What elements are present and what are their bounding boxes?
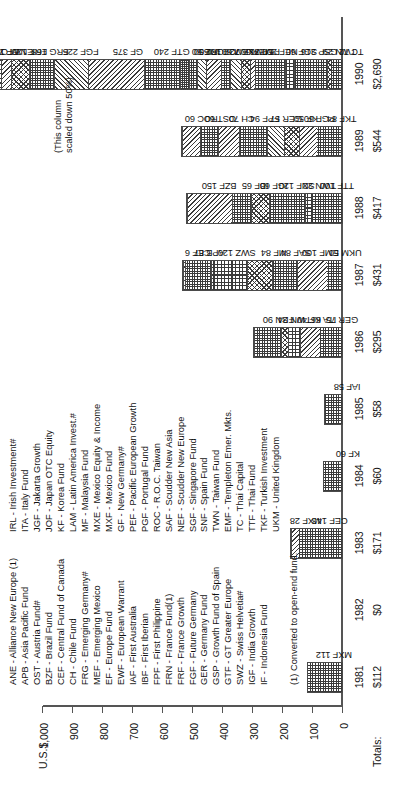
x-tick-label-1990: 1990 bbox=[353, 47, 365, 101]
bar-1984[interactable] bbox=[323, 461, 343, 492]
bar-segment-ttf[interactable] bbox=[312, 194, 342, 223]
y-tick-label: 500 bbox=[188, 723, 200, 769]
segment-label-cef: CEF 6 bbox=[185, 248, 211, 257]
y-tick-label: 200 bbox=[278, 723, 290, 769]
bar-segment-mef[interactable] bbox=[241, 60, 250, 89]
legend-item: IBF - First Iberian bbox=[140, 558, 152, 685]
bar-segment-sgf[interactable] bbox=[285, 60, 294, 89]
bar-segment-twn[interactable] bbox=[327, 60, 331, 89]
bar-segment-gf[interactable] bbox=[88, 60, 144, 89]
bar-segment-mf[interactable] bbox=[247, 261, 272, 290]
bar-segment-ger[interactable] bbox=[320, 328, 343, 357]
bar-segment-roc[interactable] bbox=[182, 127, 200, 156]
bar-segment-bzf[interactable] bbox=[187, 194, 232, 223]
bar-segment-jof[interactable] bbox=[206, 60, 221, 89]
legend-item: MXF - Mexico Fund bbox=[104, 403, 116, 532]
bar-segment-mxf[interactable] bbox=[308, 663, 342, 692]
bar-segment-apb[interactable] bbox=[185, 261, 211, 290]
bar-1981[interactable] bbox=[307, 662, 343, 693]
bar-segment-frn[interactable] bbox=[254, 328, 281, 357]
bar-1988[interactable] bbox=[186, 193, 343, 224]
bar-segment-jgf[interactable] bbox=[197, 60, 206, 89]
y-tick-label: 900 bbox=[68, 723, 80, 769]
legend-item: TC - Thai Capital bbox=[235, 403, 247, 532]
legend-item: JGF - Jakarta Growth bbox=[32, 403, 44, 532]
y-tick-label: 1,000 bbox=[38, 723, 50, 769]
bar-segment-ost[interactable] bbox=[200, 127, 218, 156]
bar-segment-pef[interactable] bbox=[250, 60, 255, 89]
bar-segment-frf[interactable] bbox=[11, 60, 29, 89]
bar-segment-kf[interactable] bbox=[324, 462, 342, 491]
bar-segment-lam[interactable] bbox=[221, 60, 230, 89]
bar-segment-if[interactable] bbox=[180, 60, 189, 89]
bar-segment-kf[interactable] bbox=[288, 328, 300, 357]
segment-label-mf: MF 84 bbox=[261, 248, 287, 257]
y-tick-mark bbox=[342, 706, 343, 713]
bar-segment-gtf[interactable] bbox=[144, 60, 180, 89]
bar-segment-cef[interactable] bbox=[183, 261, 185, 290]
legend-item: IGF - India Growth bbox=[247, 558, 259, 685]
bar-1986[interactable] bbox=[253, 327, 343, 358]
bar-segment-enwf[interactable] bbox=[1, 60, 12, 89]
legend-item: NEF - Scudder New Europe bbox=[176, 403, 188, 532]
bar-segment-ger[interactable] bbox=[267, 127, 284, 156]
bar-segment-pgf[interactable] bbox=[299, 127, 317, 156]
legend-item: ANE - Alliance New Europe (1) bbox=[8, 558, 20, 685]
legend-item: EMF - Templeton Emer. Mkts. bbox=[223, 403, 235, 532]
chart-footnote: (1) Converted to open-end fund. bbox=[289, 553, 299, 685]
y-tick-mark bbox=[162, 706, 163, 713]
bar-segment-twn[interactable] bbox=[305, 194, 312, 223]
x-tick-label-1987: 1987 bbox=[353, 248, 365, 302]
segment-label-if: IF 60 bbox=[192, 47, 212, 56]
bar-segment-emf[interactable] bbox=[297, 261, 327, 290]
total-value-1988: $417 bbox=[371, 181, 383, 235]
bar-segment-cef[interactable] bbox=[299, 529, 342, 558]
bar-segment-snf[interactable] bbox=[269, 194, 305, 223]
bar-1985[interactable] bbox=[324, 394, 343, 425]
segment-label-roc: ROC 60 bbox=[185, 114, 218, 123]
bar-segment-ch[interactable] bbox=[218, 127, 239, 156]
y-tick-mark bbox=[282, 706, 283, 713]
bar-segment-irl[interactable] bbox=[189, 60, 197, 89]
total-value-1984: $60 bbox=[371, 449, 383, 503]
bar-1989[interactable] bbox=[181, 126, 343, 157]
bar-segment-nef[interactable] bbox=[255, 60, 285, 89]
total-value-1987: $431 bbox=[371, 248, 383, 302]
bar-segment-ukm[interactable] bbox=[327, 261, 342, 290]
bar-segment-fpf[interactable] bbox=[239, 127, 267, 156]
bar-segment-mxe[interactable] bbox=[230, 60, 241, 89]
bar-segment-swz[interactable] bbox=[211, 261, 247, 290]
legend-item: SNF - Spain Fund bbox=[199, 403, 211, 532]
legend-item: APB - Asia Pacific Fund bbox=[20, 558, 32, 685]
segment-label-gf: GF 375 bbox=[113, 47, 143, 56]
bar-segment-gsp[interactable] bbox=[294, 60, 326, 89]
legend-item: FGF - Future Germany bbox=[188, 558, 200, 685]
legend-item: EF - Europe Fund bbox=[104, 558, 116, 685]
legend-item: MXE - Mexico Equity & Income bbox=[92, 403, 104, 532]
legend-item: ITA - Italy Fund bbox=[20, 403, 32, 532]
bar-segment-igf[interactable] bbox=[251, 194, 269, 223]
x-tick-label-1985: 1985 bbox=[353, 382, 365, 436]
bar-1987[interactable] bbox=[182, 260, 343, 291]
bar-segment-kf[interactable] bbox=[284, 127, 299, 156]
bar-segment-ibf[interactable] bbox=[232, 194, 252, 223]
y-tick-mark bbox=[132, 706, 133, 713]
bar-segment-tkf[interactable] bbox=[317, 127, 342, 156]
legend-item: OST - Austria Fund# bbox=[32, 558, 44, 685]
bar-segment-ita[interactable] bbox=[300, 328, 320, 357]
bar-segment-frg[interactable] bbox=[29, 60, 54, 89]
bar-segment-saf[interactable] bbox=[272, 261, 297, 290]
bar-segment-tc[interactable] bbox=[331, 60, 342, 89]
legend-item: CEF - Central Fund of Canada bbox=[56, 558, 68, 685]
fund-code-legend: ANE - Alliance New Europe (1)APB - Asia … bbox=[8, 403, 283, 685]
x-tick-label-1982: 1982 bbox=[353, 583, 365, 637]
rotated-figure-wrapper: U.S.$ 01002003004005006007008009001,000 … bbox=[0, 0, 405, 793]
total-value-1982: $0 bbox=[371, 583, 383, 637]
legend-item: LAM - Latin America Invest.# bbox=[68, 403, 80, 532]
bar-segment-twn[interactable] bbox=[281, 328, 288, 357]
bar-segment-ef[interactable] bbox=[0, 60, 1, 89]
bar-1990[interactable] bbox=[0, 59, 343, 90]
legend-item: MF - Malaysia Fund bbox=[80, 403, 92, 532]
legend-item: TWN - Taiwan Fund bbox=[211, 403, 223, 532]
bar-segment-iaf[interactable] bbox=[325, 395, 342, 424]
